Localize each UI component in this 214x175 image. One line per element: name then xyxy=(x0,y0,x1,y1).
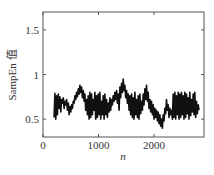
sampen-chart: 010002000 0.511.5 n SampEn 值 xyxy=(0,0,214,175)
x-axis-ticks: 010002000 xyxy=(40,12,165,151)
x-tick-label: 1000 xyxy=(88,139,111,151)
sampen-series xyxy=(54,79,199,128)
y-tick-label: 1 xyxy=(34,69,40,81)
sampen-line xyxy=(54,79,199,128)
y-tick-label: 1.5 xyxy=(25,24,39,36)
y-axis-title: SampEn 值 xyxy=(6,49,18,100)
y-tick-label: 0.5 xyxy=(25,113,39,125)
x-axis-title: n xyxy=(120,150,126,162)
plot-frame xyxy=(43,12,204,137)
x-tick-label: 0 xyxy=(40,139,46,151)
x-tick-label: 2000 xyxy=(143,139,166,151)
